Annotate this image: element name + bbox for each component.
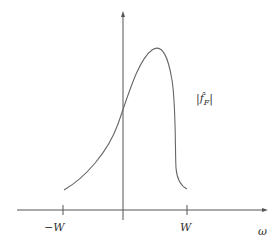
curve-label-main: |f̂ bbox=[196, 92, 204, 105]
curve-label-close: | bbox=[209, 92, 213, 105]
plot-canvas bbox=[0, 0, 280, 246]
curve-label: |f̂F| bbox=[196, 93, 213, 107]
magnitude-curve bbox=[64, 48, 187, 190]
tick-label-minus-w: −W bbox=[44, 222, 65, 233]
x-axis-label-omega: ω bbox=[258, 226, 267, 237]
x-axis-arrow-icon bbox=[262, 208, 268, 212]
tick-label-w: W bbox=[180, 222, 191, 233]
y-axis-arrow-icon bbox=[121, 11, 125, 17]
fourier-magnitude-diagram: −W W ω |f̂F| bbox=[0, 0, 280, 246]
